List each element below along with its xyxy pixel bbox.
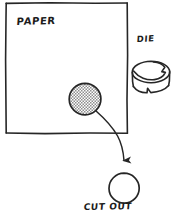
die-cylinder [132, 61, 169, 93]
die-cut-sketch-diagram: PAPER DIE CUT OUT [0, 0, 174, 216]
cut-out-circle [109, 173, 139, 203]
process-arrow [96, 111, 125, 161]
die-label: DIE [136, 34, 154, 43]
cut-out-label: CUT OUT [83, 202, 132, 212]
paper-label: PAPER [16, 16, 56, 27]
sketch-canvas [0, 0, 174, 216]
